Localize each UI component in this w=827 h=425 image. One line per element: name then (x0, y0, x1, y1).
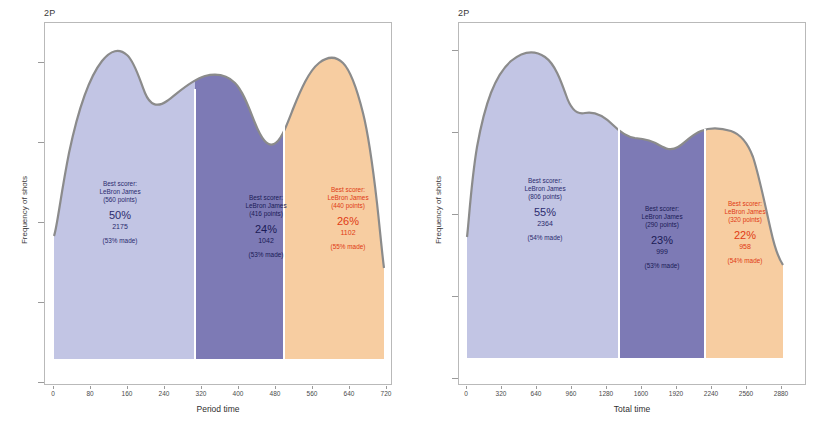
chart-page: 2P Frequency of shots (0, 0, 827, 425)
x-axis-label-right: Total time (458, 404, 806, 414)
x-tick-label: 0 (51, 390, 55, 397)
chart-panel-total-time: 2P Frequency of shots (414, 0, 827, 425)
x-tick-label: 400 (233, 390, 244, 397)
x-axis-ticks-right: 0 320 640 960 1280 1600 1920 2240 2560 2… (458, 386, 806, 402)
x-tick-label: 2240 (704, 390, 718, 397)
x-tick-label: 480 (270, 390, 281, 397)
y-axis-label-right: Frequency of shots (420, 30, 429, 150)
segment-label-left-3: Best scorer: LeBron James (440 points) 2… (300, 186, 396, 251)
segment-label-right-1: Best scorer: LeBron James (806 points) 5… (497, 177, 593, 242)
x-tick-label: 240 (159, 390, 170, 397)
y-axis-label-left: Frequency of shots (6, 30, 15, 150)
x-tick-label: 960 (566, 390, 577, 397)
x-tick-label: 640 (344, 390, 355, 397)
x-axis-label-left: Period time (44, 404, 392, 414)
x-tick-label: 1920 (669, 390, 683, 397)
x-tick-label: 2880 (774, 390, 788, 397)
x-tick-label: 320 (496, 390, 507, 397)
chart-title-right: 2P (458, 8, 469, 18)
x-tick-label: 560 (307, 390, 318, 397)
chart-panel-period-time: 2P Frequency of shots (0, 0, 413, 425)
x-tick-label: 640 (531, 390, 542, 397)
x-tick-label: 160 (122, 390, 133, 397)
x-tick-label: 80 (86, 390, 93, 397)
segment-label-left-1: Best scorer: LeBron James (560 points) 5… (72, 180, 168, 245)
x-tick-label: 1280 (599, 390, 613, 397)
segment-label-right-2: Best scorer: LeBron James (290 points) 2… (614, 205, 710, 270)
segment-label-right-3: Best scorer: LeBron James (320 points) 2… (697, 200, 793, 265)
x-tick-label: 2560 (739, 390, 753, 397)
chart-title-left: 2P (44, 8, 55, 18)
x-axis-ticks-left: 0 80 160 240 320 400 480 560 640 720 (44, 386, 392, 402)
x-tick-label: 0 (464, 390, 468, 397)
x-tick-label: 720 (381, 390, 392, 397)
x-tick-label: 320 (196, 390, 207, 397)
x-tick-label: 1600 (634, 390, 648, 397)
